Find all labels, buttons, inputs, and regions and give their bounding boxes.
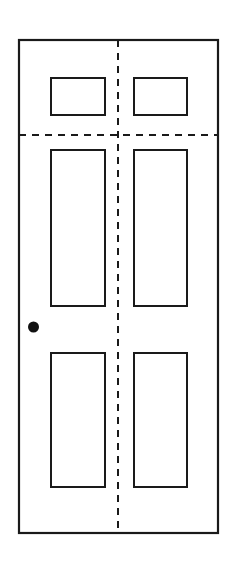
panel-middle-left bbox=[51, 150, 105, 306]
panel-top-right bbox=[134, 78, 187, 115]
door-knob-icon[interactable] bbox=[28, 322, 39, 333]
panel-middle-right bbox=[134, 150, 187, 306]
drawing-canvas bbox=[0, 0, 237, 569]
panel-top-left bbox=[51, 78, 105, 115]
door-elevation-drawing bbox=[0, 0, 237, 569]
panel-bottom-right bbox=[134, 353, 187, 487]
panel-bottom-left bbox=[51, 353, 105, 487]
